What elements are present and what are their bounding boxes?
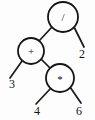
node-plus-add[interactable]: + [18,38,44,64]
leaf-node-two[interactable]: 2 [79,47,85,61]
node-root-divide[interactable]: / [48,2,78,32]
edge-group [10,27,84,104]
node-times-multiply[interactable]: * [46,64,74,92]
leaf-node-four[interactable]: 4 [34,104,40,118]
expression-tree-diagram: / + * 2 3 4 6 [0,0,95,120]
tree-svg-canvas: / + * 2 3 4 6 [0,0,95,120]
leaf-node-three[interactable]: 3 [9,77,15,91]
edge-plus-to-three [10,61,22,78]
leaf-node-six[interactable]: 6 [76,104,82,118]
edge-times-to-six [70,87,81,103]
times-node-label: * [57,73,63,85]
edge-times-to-four [36,88,51,104]
edge-root-to-plus [39,27,52,41]
plus-node-label: + [28,45,34,57]
edge-root-to-two [74,27,84,47]
